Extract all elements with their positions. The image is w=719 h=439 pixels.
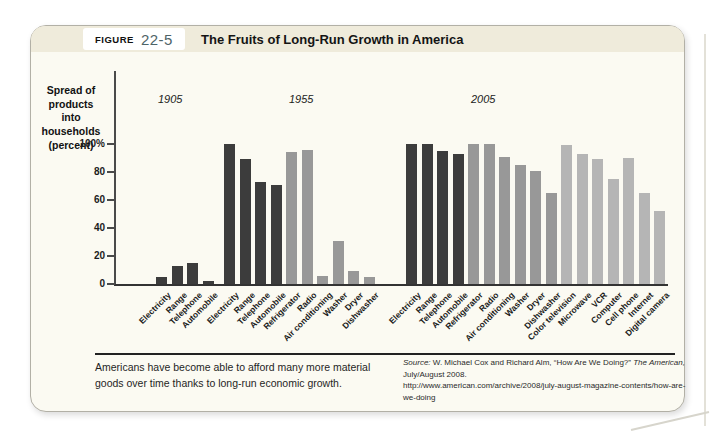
bar-2005-computer [608, 179, 619, 284]
page-edge-line [704, 34, 706, 426]
source-date: July/August 2008. [403, 370, 467, 379]
source-text: W. Michael Cox and Richard Alm, “How Are… [431, 358, 634, 367]
bar-group-1955 [224, 142, 375, 284]
source-publication: The American, [633, 358, 685, 367]
caption-divider [95, 353, 675, 355]
y-tick-label-0: 0 [67, 278, 105, 289]
y-tick-label-20: 20 [67, 250, 105, 261]
bar-2005-washer [515, 165, 526, 284]
bar-2005-air-conditioning [499, 157, 510, 284]
bar-1905-electricity [156, 277, 167, 284]
y-tick-mark [107, 143, 115, 145]
bar-2005-vcr [592, 159, 603, 284]
source-url: http://www.american.com/archive/2008/jul… [403, 381, 685, 402]
bar-2005-microwave [577, 154, 588, 284]
bar-1955-electricity [224, 144, 235, 284]
x-axis-line [114, 284, 668, 286]
bar-1955-dryer [348, 271, 359, 284]
y-tick-mark [107, 283, 115, 285]
bar-1955-telephone [255, 182, 266, 284]
bar-2005-dryer [530, 171, 541, 284]
y-tick-label-80: 80 [67, 166, 105, 177]
bar-2005-automobile [453, 154, 464, 284]
y-tick-label-40: 40 [67, 222, 105, 233]
bar-2005-dishwasher [546, 193, 557, 284]
bar-1905-automobile [203, 281, 214, 284]
y-tick-mark [107, 227, 115, 229]
bar-2005-color-television [561, 145, 572, 284]
bar-group-1905 [156, 142, 214, 284]
bar-1955-automobile [271, 185, 282, 284]
bar-1905-range [172, 266, 183, 284]
year-label-2005: 2005 [471, 93, 495, 105]
bar-1955-dishwasher [364, 277, 375, 284]
bar-2005-telephone [437, 151, 448, 284]
bar-2005-internet [639, 193, 650, 284]
bar-1955-range [240, 159, 251, 284]
bar-2005-range [422, 144, 433, 284]
source-label: Source: [403, 358, 431, 367]
bar-1955-washer [333, 241, 344, 284]
bar-2005-refrigerator [468, 144, 479, 284]
bar-2005-digital-camera [654, 211, 665, 284]
y-tick-label-60: 60 [67, 194, 105, 205]
y-axis-line [114, 71, 116, 286]
bar-2005-electricity [406, 144, 417, 284]
bar-2005-cell-phone [623, 158, 634, 284]
y-tick-mark [107, 199, 115, 201]
bar-group-2005 [406, 142, 665, 284]
bar-1955-air-conditioning [317, 276, 328, 284]
figure-caption: Americans have become able to afford man… [95, 359, 395, 392]
bar-1955-refrigerator [286, 152, 297, 284]
year-label-1905: 1905 [158, 93, 182, 105]
y-tick-mark [107, 171, 115, 173]
source-note: Source: W. Michael Cox and Richard Alm, … [403, 357, 687, 403]
bar-1905-telephone [187, 263, 198, 284]
y-tick-label-100: 100% [67, 138, 105, 149]
bar-1955-radio [302, 150, 313, 284]
bar-2005-radio [484, 144, 495, 284]
y-tick-mark [107, 255, 115, 257]
year-label-1955: 1955 [289, 93, 313, 105]
page-curl-line [631, 411, 709, 431]
figure-card: FIGURE 22-5 The Fruits of Long-Run Growt… [30, 25, 685, 412]
